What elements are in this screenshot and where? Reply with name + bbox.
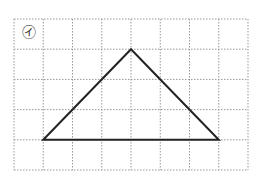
figure-label: ㋑	[21, 24, 37, 40]
grid-figure	[0, 0, 255, 187]
dotted-grid	[14, 19, 248, 170]
